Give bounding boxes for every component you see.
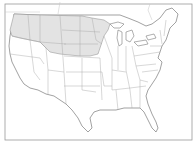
us-map-svg <box>0 0 196 144</box>
us-map <box>0 0 196 144</box>
